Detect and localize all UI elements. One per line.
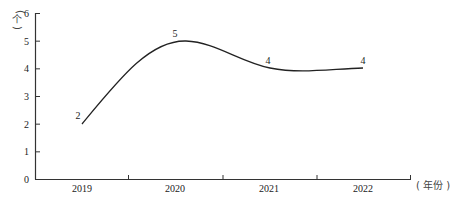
y-unit-paren-close: ) xyxy=(12,26,23,30)
data-label: 2 xyxy=(76,110,81,121)
x-tick-label: 2020 xyxy=(165,183,185,194)
x-axis-unit-label: ( 年份 ) xyxy=(416,179,450,191)
x-axis-labels: 2019202020212022 xyxy=(72,183,373,194)
y-axis-ticks: 0123456 xyxy=(24,8,40,185)
data-label: 4 xyxy=(361,55,366,66)
y-tick-label: 0 xyxy=(24,174,29,185)
y-tick-label: 1 xyxy=(24,146,29,157)
y-tick-label: 5 xyxy=(24,36,29,47)
y-unit-char: 个 xyxy=(12,14,22,25)
data-label: 4 xyxy=(266,55,271,66)
series-line xyxy=(82,41,363,124)
data-labels: 2544 xyxy=(76,28,366,121)
y-tick-label: 6 xyxy=(24,8,29,19)
data-label: 5 xyxy=(173,28,178,39)
x-tick-label: 2022 xyxy=(353,183,373,194)
x-tick-label: 2021 xyxy=(259,183,279,194)
x-tick-label: 2019 xyxy=(72,183,92,194)
y-tick-label: 4 xyxy=(24,63,29,74)
x-axis-ticks xyxy=(129,175,318,180)
line-chart: ( 个 ) 0123456 2019202020212022 ( 年份 ) 25… xyxy=(0,0,457,208)
y-tick-label: 2 xyxy=(24,119,29,130)
y-tick-label: 3 xyxy=(24,91,29,102)
